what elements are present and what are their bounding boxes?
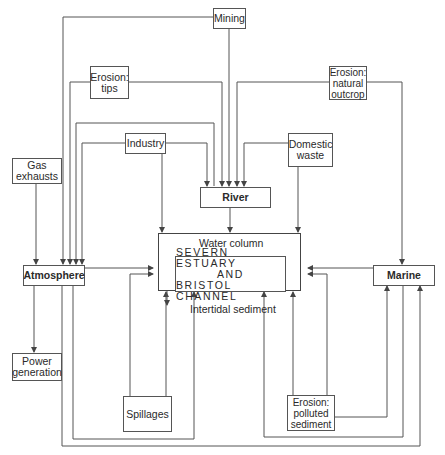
- spillages-node: Spillages: [123, 396, 172, 432]
- erosion-outcrop-line1: Erosion:: [330, 67, 367, 78]
- connector-lines: [0, 0, 445, 455]
- river-node: River: [200, 187, 271, 208]
- industry-label: Industry: [127, 138, 164, 149]
- severn-estuary-box: SEVERN ESTUARY AND BRISTOL CHANNEL: [175, 256, 286, 292]
- gas-exhausts-line2: exhausts: [16, 171, 58, 182]
- estuary-line1: SEVERN ESTUARY: [176, 247, 285, 269]
- river-label: River: [222, 192, 248, 203]
- industry-node: Industry: [125, 133, 166, 154]
- domestic-waste-line2: waste: [297, 150, 324, 161]
- estuary-line3: BRISTOL CHANNEL: [176, 280, 285, 302]
- erosion-tips-line2: tips: [101, 83, 117, 94]
- spillages-label: Spillages: [126, 409, 169, 420]
- domestic-waste-node: Domestic waste: [288, 133, 333, 167]
- gas-exhausts-node: Gas exhausts: [12, 158, 62, 184]
- erosion-outcrop-node: Erosion: natural outcrop: [329, 66, 367, 100]
- erosion-polluted-node: Erosion: polluted sediment: [287, 395, 335, 431]
- mining-label: Mining: [214, 13, 245, 24]
- erosion-tips-node: Erosion: tips: [90, 66, 129, 99]
- atmosphere-label: Atmosphere: [23, 270, 84, 281]
- erosion-tips-line1: Erosion:: [90, 72, 129, 83]
- intertidal-sediment-label: Intertidal sediment: [190, 303, 276, 315]
- erosion-polluted-line2: polluted: [293, 408, 328, 419]
- erosion-polluted-line1: Erosion:: [293, 397, 330, 408]
- estuary-line2: AND: [217, 269, 244, 280]
- erosion-outcrop-line3: outcrop: [331, 89, 364, 100]
- erosion-polluted-line3: sediment: [291, 419, 332, 430]
- power-generation-node: Power generation: [12, 353, 62, 381]
- atmosphere-node: Atmosphere: [23, 265, 85, 286]
- marine-node: Marine: [373, 265, 435, 286]
- power-generation-line2: generation: [12, 367, 62, 378]
- mining-node: Mining: [213, 8, 246, 29]
- erosion-outcrop-line2: natural: [333, 78, 364, 89]
- marine-label: Marine: [387, 270, 421, 281]
